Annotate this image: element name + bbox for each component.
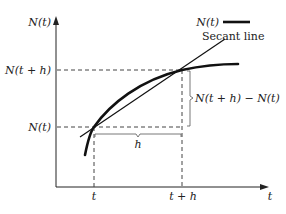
x-tick-t-plus-h: t + h [169, 190, 197, 203]
x-axis-label: t [268, 190, 273, 203]
legend-secant-label: Secant line [202, 30, 264, 43]
h-label: h [134, 138, 141, 151]
delta-n-label: N(t + h) − N(t) [194, 92, 280, 105]
secant-line [80, 39, 225, 137]
y-axis-arrow-icon [53, 16, 59, 25]
secant-diagram: N(t) N(t + h) N(t) t t + h t N(t) Secant… [0, 0, 286, 214]
y-axis-label: N(t) [27, 16, 51, 29]
y-tick-n-t: N(t) [27, 121, 51, 134]
h-bracket [95, 134, 181, 137]
delta-n-bracket [187, 71, 193, 126]
x-tick-t: t [92, 190, 97, 203]
dashed-guides [57, 70, 182, 187]
legend-curve-label: N(t) [195, 16, 219, 29]
curve-n-t [85, 64, 238, 155]
y-tick-n-t-plus-h: N(t + h) [4, 64, 51, 77]
